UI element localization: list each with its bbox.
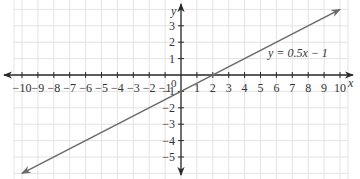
x-tick-label: −9 (32, 81, 45, 95)
x-tick-label: 10 (334, 81, 346, 95)
origin-label: 0 (171, 77, 177, 89)
x-tick-label: −4 (111, 81, 124, 95)
x-tick-label: 8 (305, 81, 311, 95)
x-tick-label: 4 (242, 81, 248, 95)
y-axis-label: y (170, 4, 177, 18)
y-tick-label: −2 (162, 101, 175, 115)
x-tick-label: −3 (127, 81, 140, 95)
x-tick-label: −6 (79, 81, 92, 95)
y-tick-label: 1 (169, 52, 175, 66)
x-tick-label: −10 (13, 81, 32, 95)
x-tick-label: −5 (95, 81, 108, 95)
x-tick-label: 7 (289, 81, 295, 95)
x-tick-label: −2 (143, 81, 156, 95)
line-chart: −10−9−8−7−6−5−4−3−2−112345678910321−2−3−… (0, 0, 360, 179)
x-tick-label: 6 (273, 81, 279, 95)
x-tick-label: 5 (258, 81, 264, 95)
x-axis-label: x (347, 76, 354, 90)
y-tick-label: 2 (169, 35, 175, 49)
y-tick-label: −3 (162, 117, 175, 131)
x-tick-label: 2 (210, 81, 216, 95)
x-tick-label: 3 (226, 81, 232, 95)
x-tick-label: 9 (321, 81, 327, 95)
y-tick-label: −4 (162, 134, 175, 148)
y-tick-label: 3 (169, 19, 175, 33)
x-tick-label: −8 (47, 81, 60, 95)
y-tick-label: −5 (162, 150, 175, 164)
x-tick-label: −7 (63, 81, 76, 95)
equation-label: y = 0.5x − 1 (267, 46, 328, 60)
